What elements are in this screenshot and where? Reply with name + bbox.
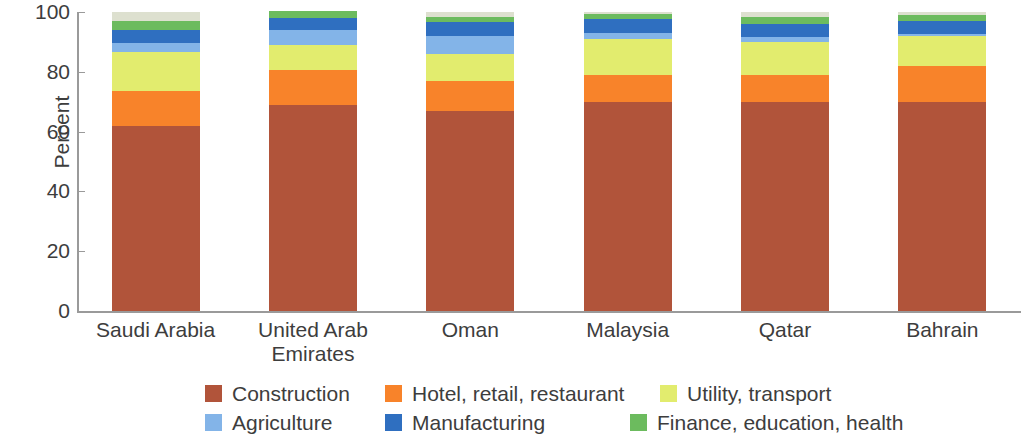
bar-segment[interactable] [584,19,672,33]
bar-segment[interactable] [741,101,829,311]
bar-segment[interactable] [112,29,200,43]
bar-segment[interactable] [112,20,200,30]
legend-item[interactable]: Utility, transport [660,380,831,406]
x-axis-label: Bahrain [864,318,1021,342]
bar-segment[interactable] [584,32,672,39]
stacked-bar[interactable] [112,12,200,311]
bar-segment-other[interactable] [898,12,986,15]
bar-segment[interactable] [269,104,357,311]
bar-segment[interactable] [426,35,514,54]
y-axis-ticks: 020406080100 [8,0,70,437]
bar-group [898,12,986,311]
bar-segment[interactable] [584,74,672,102]
bar-segment[interactable] [112,91,200,126]
y-tick-label-0: 0 [18,300,70,321]
legend-swatch-icon [205,385,222,402]
bar-segment[interactable] [898,14,986,21]
bar-segment[interactable] [741,16,829,24]
bar-segment[interactable] [112,43,200,53]
legend-item[interactable]: Manufacturing [385,409,545,435]
bar-segment[interactable] [741,37,829,42]
bar-segment[interactable] [898,101,986,311]
legend-item[interactable]: Hotel, retail, restaurant [385,380,624,406]
legend-label: Finance, education, health [657,412,903,433]
y-tick-label-20: 20 [18,240,70,261]
legend-label: Agriculture [232,412,332,433]
bar-group [741,12,829,311]
legend-swatch-icon [385,414,402,431]
legend-label: Construction [232,383,350,404]
x-axis-line [77,311,1021,313]
x-axis-label: Oman [392,318,549,342]
bar-segment[interactable] [426,53,514,81]
x-axis-label: Qatar [706,318,863,342]
legend-item[interactable]: Construction [205,380,350,406]
bar-segment-other[interactable] [741,12,829,16]
bar-segment-other[interactable] [584,12,672,13]
x-axis-label: United Arab Emirates [234,318,391,366]
legend-label: Hotel, retail, restaurant [412,383,624,404]
bar-group [112,12,200,311]
stacked-bar[interactable] [269,12,357,311]
bar-segment[interactable] [426,22,514,36]
y-tick-label-40: 40 [18,180,70,201]
legend-item[interactable]: Agriculture [205,409,332,435]
bar-segment[interactable] [898,35,986,66]
bar-segment[interactable] [426,80,514,111]
legend-label: Utility, transport [687,383,831,404]
bar-segment[interactable] [898,65,986,101]
y-tick-label-80: 80 [18,61,70,82]
y-tick-label-100: 100 [18,1,70,22]
x-axis-label: Malaysia [549,318,706,342]
bar-segment[interactable] [269,70,357,105]
bar-segment-other[interactable] [112,12,200,21]
bar-group [426,12,514,311]
bar-segment[interactable] [741,74,829,102]
bar-segment[interactable] [269,11,357,18]
bar-segment[interactable] [426,16,514,23]
legend-swatch-icon [630,414,647,431]
bar-segment[interactable] [741,23,829,37]
legend-swatch-icon [205,414,222,431]
stacked-bar-chart: Percent 020406080100 Saudi ArabiaUnited … [0,0,1028,437]
bar-segment[interactable] [269,29,357,45]
stacked-bar[interactable] [898,12,986,311]
bar-segment[interactable] [269,44,357,70]
bar-segment[interactable] [741,41,829,74]
bar-group [269,12,357,311]
chart-legend: ConstructionHotel, retail, restaurantUti… [0,378,1028,437]
stacked-bar[interactable] [741,12,829,311]
legend-swatch-icon [660,385,677,402]
bar-segment[interactable] [112,52,200,91]
stacked-bar[interactable] [426,12,514,311]
x-axis-label: Saudi Arabia [77,318,234,342]
stacked-bar[interactable] [584,12,672,311]
bar-segment[interactable] [112,125,200,311]
bar-segment[interactable] [898,20,986,34]
bar-segment[interactable] [426,110,514,311]
bar-group [584,12,672,311]
bar-segment[interactable] [269,17,357,30]
bar-segment[interactable] [584,101,672,311]
legend-item[interactable]: Finance, education, health [630,409,903,435]
bar-segment[interactable] [584,13,672,20]
y-tick-label-60: 60 [18,121,70,142]
legend-label: Manufacturing [412,412,545,433]
bar-segment[interactable] [584,38,672,74]
legend-swatch-icon [385,385,402,402]
plot-area [77,12,1021,311]
bar-segment-other[interactable] [426,12,514,16]
